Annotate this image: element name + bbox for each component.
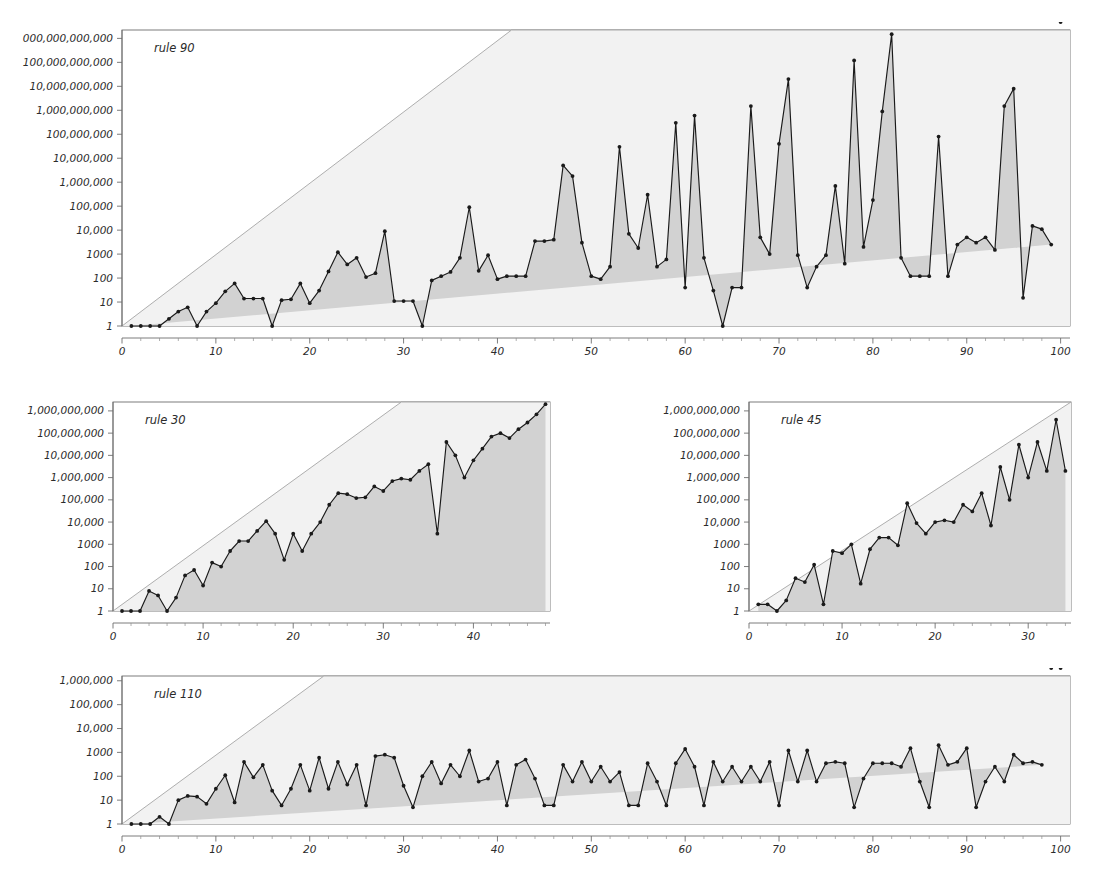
y-axis-rule90: 110100100010,000100,0001,000,00010,000,0… xyxy=(22,30,122,332)
x-tick-label: 0 xyxy=(746,630,753,642)
y-tick-label: 10 xyxy=(100,296,114,308)
chart-svg-rule90: 110100100010,000100,0001,000,00010,000,0… xyxy=(22,22,1078,360)
y-tick-label: 1,000,000 xyxy=(51,471,105,483)
rule-label-rule30: rule 30 xyxy=(145,413,186,427)
x-axis-rule110: 0102030405060708090100 xyxy=(119,836,1071,855)
rule-label-rule45: rule 45 xyxy=(781,413,822,427)
x-tick-label: 10 xyxy=(835,630,849,642)
x-tick-label: 50 xyxy=(585,843,599,855)
y-tick-label: 100,000 xyxy=(697,493,741,505)
x-tick-label: 0 xyxy=(119,345,126,357)
x-axis-rule90: 0102030405060708090100 xyxy=(119,338,1071,357)
y-tick-label: 1,000,000,000,000 xyxy=(22,32,113,44)
y-tick-label: 1,000,000,000 xyxy=(663,404,740,416)
y-tick-label: 100,000 xyxy=(61,493,105,505)
x-tick-label: 80 xyxy=(866,843,880,855)
x-tick-label: 0 xyxy=(110,630,117,642)
x-tick-label: 70 xyxy=(772,843,786,855)
x-tick-label: 100 xyxy=(1051,843,1071,855)
y-tick-label: 10,000 xyxy=(67,516,104,528)
x-axis-rule45: 0102030 xyxy=(746,623,1071,642)
x-tick-label: 90 xyxy=(960,843,974,855)
y-tick-label: 1,000,000 xyxy=(687,471,741,483)
rule-label-rule90: rule 90 xyxy=(154,41,195,55)
y-tick-label: 10,000,000 xyxy=(53,152,113,164)
y-tick-label: 100 xyxy=(720,560,740,572)
chart-panel-rule30: 110100100010,000100,0001,000,00010,000,0… xyxy=(13,394,558,645)
y-tick-label: 100 xyxy=(84,560,104,572)
y-tick-label: 10 xyxy=(100,794,114,806)
y-tick-label: 10,000 xyxy=(76,722,113,734)
x-tick-label: 30 xyxy=(377,630,391,642)
x-tick-label: 100 xyxy=(1051,345,1071,357)
y-tick-label: 1 xyxy=(106,818,113,830)
y-tick-label: 1,000,000 xyxy=(60,176,114,188)
y-tick-label: 1000 xyxy=(86,746,113,758)
y-tick-label: 100,000 xyxy=(70,698,114,710)
y-tick-label: 1000 xyxy=(77,538,104,550)
x-tick-label: 10 xyxy=(196,630,210,642)
chart-panel-rule90: 110100100010,000100,0001,000,00010,000,0… xyxy=(22,22,1078,360)
y-tick-label: 100,000,000 xyxy=(46,128,113,140)
y-tick-label: 10 xyxy=(91,582,105,594)
x-tick-label: 30 xyxy=(397,345,411,357)
chart-svg-rule45: 110100100010,000100,0001,000,00010,000,0… xyxy=(649,394,1079,645)
y-tick-label: 1000 xyxy=(86,248,113,260)
y-axis-rule30: 110100100010,000100,0001,000,00010,000,0… xyxy=(27,402,113,617)
y-tick-label: 100,000,000,000 xyxy=(23,56,113,68)
x-tick-label: 70 xyxy=(772,345,786,357)
y-tick-label: 100 xyxy=(93,770,113,782)
chart-svg-rule110: 110100100010,000100,0001,000,00001020304… xyxy=(22,668,1078,858)
x-tick-label: 30 xyxy=(1022,630,1036,642)
y-tick-label: 10,000 xyxy=(76,224,113,236)
x-tick-label: 40 xyxy=(491,843,505,855)
chart-panel-rule110: 110100100010,000100,0001,000,00001020304… xyxy=(22,668,1078,858)
y-tick-label: 100,000,000 xyxy=(37,427,104,439)
x-tick-label: 40 xyxy=(467,630,481,642)
y-tick-label: 100 xyxy=(93,272,113,284)
y-tick-label: 1,000,000,000 xyxy=(36,104,113,116)
y-tick-label: 10,000,000 xyxy=(44,449,104,461)
chart-panel-rule45: 110100100010,000100,0001,000,00010,000,0… xyxy=(649,394,1079,645)
x-tick-label: 10 xyxy=(209,843,223,855)
y-tick-label: 10,000 xyxy=(703,516,740,528)
x-tick-label: 50 xyxy=(585,345,599,357)
x-tick-label: 30 xyxy=(397,843,411,855)
y-tick-label: 1,000,000,000 xyxy=(27,404,104,416)
x-tick-label: 80 xyxy=(866,345,880,357)
x-tick-label: 20 xyxy=(303,843,317,855)
y-tick-label: 1 xyxy=(106,320,113,332)
x-tick-label: 0 xyxy=(119,843,126,855)
x-tick-label: 60 xyxy=(678,843,692,855)
x-tick-label: 60 xyxy=(678,345,692,357)
x-tick-label: 20 xyxy=(287,630,301,642)
y-tick-label: 100,000,000 xyxy=(673,427,740,439)
rule-label-rule110: rule 110 xyxy=(154,687,202,701)
y-tick-label: 1000 xyxy=(713,538,740,550)
y-tick-label: 100,000 xyxy=(70,200,114,212)
y-tick-label: 1 xyxy=(97,605,104,617)
x-tick-label: 10 xyxy=(209,345,223,357)
x-axis-rule30: 010203040 xyxy=(110,623,550,642)
y-tick-label: 10,000,000,000 xyxy=(30,80,114,92)
x-tick-label: 20 xyxy=(928,630,942,642)
y-tick-label: 1 xyxy=(733,605,740,617)
y-tick-label: 10 xyxy=(727,582,741,594)
y-tick-label: 1,000,000 xyxy=(60,674,114,686)
y-tick-label: 10,000,000 xyxy=(680,449,740,461)
x-tick-label: 40 xyxy=(491,345,505,357)
x-tick-label: 20 xyxy=(303,345,317,357)
chart-svg-rule30: 110100100010,000100,0001,000,00010,000,0… xyxy=(13,394,558,645)
x-tick-label: 90 xyxy=(960,345,974,357)
y-axis-rule110: 110100100010,000100,0001,000,000 xyxy=(60,674,122,829)
y-axis-rule45: 110100100010,000100,0001,000,00010,000,0… xyxy=(663,402,749,617)
